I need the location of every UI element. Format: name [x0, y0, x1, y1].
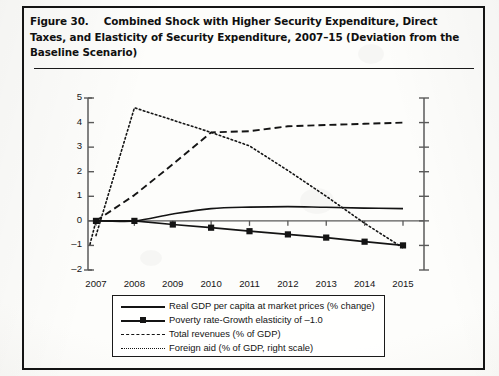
series-real-gdp — [96, 207, 403, 222]
x-axis-label: 2012 — [267, 278, 309, 289]
y-axis-label: 1 — [56, 189, 82, 200]
series-marker — [131, 218, 137, 224]
y-axis-label: 4 — [56, 116, 82, 127]
series-marker — [208, 225, 214, 231]
series-marker — [362, 239, 368, 245]
x-axis-label: 2015 — [382, 278, 424, 289]
chart-legend: Real GDP per capita at market prices (% … — [112, 295, 385, 357]
legend-label: Real GDP per capita at market prices (% … — [169, 300, 375, 311]
series-marker — [170, 221, 176, 227]
x-axis-label: 2014 — [344, 278, 386, 289]
series-marker — [323, 235, 329, 241]
legend-label: Poverty rate-Growth elasticity of –1.0 — [169, 314, 323, 325]
series-foreign-aid — [96, 108, 403, 248]
y-axis-label: –2 — [56, 263, 82, 274]
x-axis-label: 2010 — [190, 278, 232, 289]
legend-item-real-gdp: Real GDP per capita at market prices (% … — [113, 300, 384, 314]
y-axis-label: 2 — [56, 165, 82, 176]
x-axis-label: 2007 — [75, 278, 117, 289]
legend-swatch-marker-icon — [121, 320, 165, 322]
legend-item-total-revenues: Total revenues (% of GDP) — [113, 328, 384, 342]
x-axis-label: 2011 — [229, 278, 271, 289]
legend-item-poverty-rate: Poverty rate-Growth elasticity of –1.0 — [113, 314, 384, 328]
legend-swatch-dotted-icon — [121, 348, 165, 349]
legend-label: Foreign aid (% of GDP, right scale) — [169, 342, 313, 353]
x-axis-label: 2013 — [305, 278, 347, 289]
x-axis-label: 2008 — [113, 278, 155, 289]
y-axis-label: 3 — [56, 140, 82, 151]
y-axis-label: –1 — [56, 238, 82, 249]
series-total-revenues — [96, 123, 403, 221]
y-axis-label: 0 — [56, 214, 82, 225]
series-foreign-aid-stub — [90, 221, 96, 244]
series-marker — [285, 231, 291, 237]
legend-label: Total revenues (% of GDP) — [169, 328, 281, 339]
series-marker — [246, 228, 252, 234]
legend-swatch-dashed-icon — [121, 334, 165, 335]
x-axis-label: 2009 — [152, 278, 194, 289]
legend-swatch-solid-icon — [121, 306, 165, 308]
figure-page: Figure 30. Combined Shock with Higher Se… — [0, 0, 499, 376]
legend-item-foreign-aid: Foreign aid (% of GDP, right scale) — [113, 342, 384, 356]
y-axis-label: 5 — [56, 91, 82, 102]
